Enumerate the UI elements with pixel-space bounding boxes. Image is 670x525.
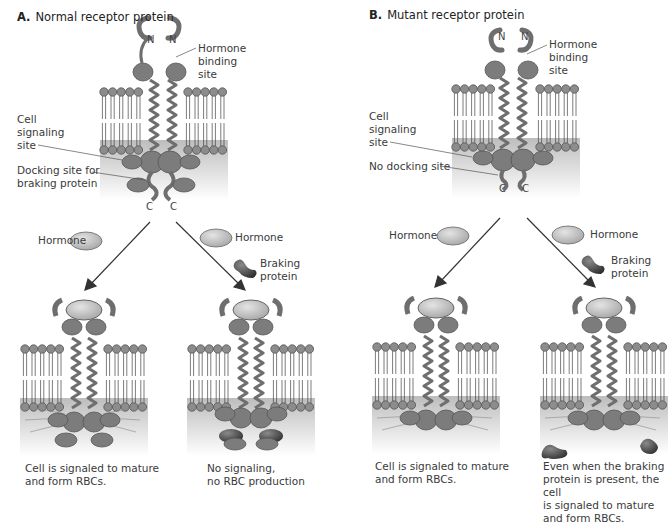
bottom-b-left [372,298,500,454]
hormone-label: Hormone [389,229,437,242]
n-terminus-label: N [498,31,505,42]
caption-b-left: Cell is signaled to mature and form RBCs… [375,460,509,486]
caption-a-right: No signaling, no RBC production [207,462,305,488]
hormone-binding-site-label: Hormone binding site [549,38,597,77]
n-terminus-label: N [169,34,176,45]
caption-a-left: Cell is signaled to mature and form RBCs… [25,462,159,488]
hormone-a-right [200,229,232,247]
panel-b-title-text: Mutant receptor protein [387,8,524,22]
hormone-label: Hormone [235,231,283,244]
hormone-b-right [552,226,584,244]
braking-protein-a [234,259,257,278]
braking-protein-b [582,255,605,274]
n-terminus-label: N [147,34,154,45]
hormone-label: Hormone [38,234,86,247]
branch-arrows [85,218,595,290]
no-docking-site-label: No docking site [369,160,450,173]
c-terminus-label: C [522,183,529,194]
hormone-b-left [437,227,469,245]
panel-a-letter: A. [17,10,30,24]
docking-site-label: Docking site for braking protein [17,164,100,190]
c-terminus-label: C [146,201,153,212]
bottom-a-right [187,300,315,456]
c-terminus-label: C [170,201,177,212]
braking-protein-label: Braking protein [611,254,651,280]
hormone-binding-site-label: Hormone binding site [198,42,246,81]
cell-signaling-site-label: Cell signaling site [17,113,64,152]
panel-b-title: B.Mutant receptor protein [369,8,524,22]
n-terminus-label: N [521,31,528,42]
bottom-b-right [540,298,668,459]
panel-a-title-text: Normal receptor protein [35,10,173,24]
panel-b-letter: B. [369,8,382,22]
hormone-label: Hormone [590,228,638,241]
cell-signaling-site-label: Cell signaling site [369,110,416,149]
c-terminus-label: C [499,183,506,194]
braking-protein-label: Braking protein [260,257,300,283]
panel-a-title: A.Normal receptor protein [17,10,174,24]
caption-b-right: Even when the braking protein is present… [543,460,670,525]
bottom-a-left [20,300,148,456]
